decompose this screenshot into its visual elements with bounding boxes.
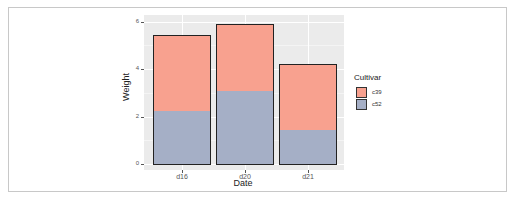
bar-segment-c52 bbox=[154, 111, 210, 164]
bar-d21 bbox=[279, 64, 337, 165]
x-tick-label: d21 bbox=[293, 173, 323, 180]
y-tick-mark bbox=[141, 22, 144, 23]
y-tick-label: 6 bbox=[127, 18, 139, 24]
plot-panel bbox=[144, 15, 344, 170]
bar-segment-c52 bbox=[280, 130, 336, 164]
gridline-major bbox=[144, 22, 344, 23]
bar-d20 bbox=[216, 24, 274, 165]
x-axis-label: Date bbox=[213, 178, 273, 188]
y-tick-label: 0 bbox=[127, 160, 139, 166]
bar-segment-c39 bbox=[154, 36, 210, 113]
y-tick-mark bbox=[141, 164, 144, 165]
legend-title: Cultivar bbox=[354, 73, 381, 82]
bar-segment-c52 bbox=[217, 91, 273, 164]
legend-key-c52 bbox=[356, 99, 367, 110]
bar-d16 bbox=[153, 35, 211, 165]
x-tick-label: d16 bbox=[167, 173, 197, 180]
y-tick-mark bbox=[141, 69, 144, 70]
y-axis-label: Weight bbox=[121, 57, 131, 117]
legend-label-c52: c52 bbox=[372, 101, 382, 107]
y-tick-mark bbox=[141, 117, 144, 118]
legend-key-c39 bbox=[356, 87, 367, 98]
legend-label-c39: c39 bbox=[372, 89, 382, 95]
bar-segment-c39 bbox=[217, 25, 273, 93]
bar-segment-c39 bbox=[280, 65, 336, 131]
